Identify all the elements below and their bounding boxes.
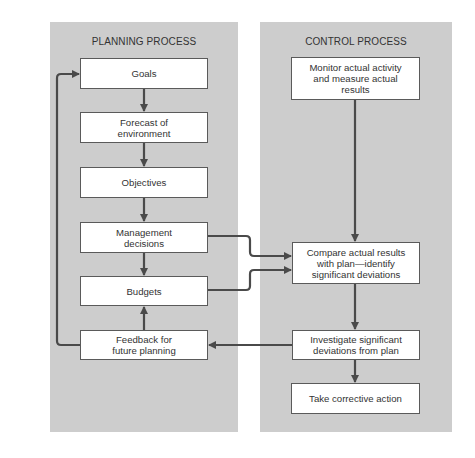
compare-box: Compare actual results with plan—identif… <box>292 242 420 284</box>
planning-process-title: PLANNING PROCESS <box>50 36 238 47</box>
objectives-box: Objectives <box>80 167 208 198</box>
control-process-title: CONTROL PROCESS <box>260 36 452 47</box>
investigate-box: Investigate significant deviations from … <box>292 330 420 360</box>
forecast-box: Forecast of environment <box>80 112 208 143</box>
budgets-box: Budgets <box>80 276 208 306</box>
monitor-box: Monitor actual activity and measure actu… <box>291 57 420 100</box>
feedback-box: Feedback for future planning <box>80 330 208 360</box>
management-decisions-box: Management decisions <box>80 222 208 253</box>
corrective-action-box: Take corrective action <box>291 383 420 414</box>
goals-box: Goals <box>80 58 208 89</box>
